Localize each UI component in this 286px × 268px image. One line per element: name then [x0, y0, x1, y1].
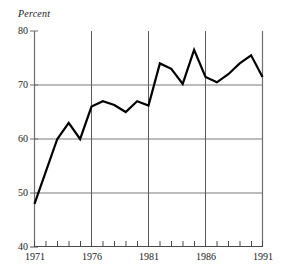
- y-tick-label-80: 80: [8, 26, 28, 36]
- x-tick-label-1971: 1971: [15, 252, 55, 262]
- y-tick-label-50: 50: [8, 188, 28, 198]
- x-tick-label-1986: 1986: [186, 252, 226, 262]
- line-chart-plot: [0, 0, 286, 268]
- x-tick-label-1976: 1976: [72, 252, 112, 262]
- x-tick-label-1991: 1991: [243, 252, 283, 262]
- x-axis-minor-ticks: [35, 241, 263, 247]
- y-tick-label-70: 70: [8, 80, 28, 90]
- x-tick-label-1981: 1981: [129, 252, 169, 262]
- y-tick-label-60: 60: [8, 134, 28, 144]
- chart-container: Percent: [0, 0, 286, 268]
